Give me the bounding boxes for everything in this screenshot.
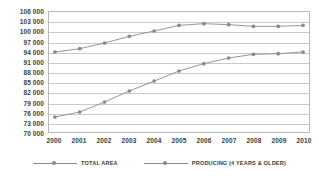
data-point-marker [202,22,206,26]
data-point-marker [127,34,131,38]
chart-legend: TOTAL AREAPRODUCING (4 YEARS & OLDER) [0,156,319,170]
data-point-marker [227,23,231,27]
y-axis: 106 000103 000100 00097 00094 00091 0008… [0,11,44,133]
plot-area [48,11,310,133]
y-tick-label: 94 000 [0,48,44,55]
line-chart: 106 000103 000100 00097 00094 00091 0008… [0,0,319,176]
data-point-marker [152,29,156,33]
data-point-marker [103,41,107,45]
data-point-marker [227,56,231,60]
y-tick-label: 97 000 [0,38,44,45]
data-point-marker [78,47,82,51]
data-point-marker [152,79,156,83]
y-tick-label: 106 000 [0,8,44,15]
data-point-marker [276,24,280,28]
legend-item[interactable]: PRODUCING (4 YEARS & OLDER) [144,160,286,167]
x-tick-label: 2010 [289,136,319,145]
y-tick-label: 79 000 [0,99,44,106]
legend-label: TOTAL AREA [81,160,118,167]
data-point-marker [301,50,305,54]
legend-item[interactable]: TOTAL AREA [33,160,118,167]
data-point-marker [301,23,305,27]
data-point-marker [202,62,206,66]
legend-marker-icon [163,161,167,165]
data-point-marker [103,100,107,104]
data-point-marker [252,52,256,56]
x-axis: 2000200120022003200420052006200720082009… [48,136,310,148]
legend-marker-icon [52,161,56,165]
legend-swatch [144,160,188,167]
data-point-marker [252,24,256,28]
y-tick-label: 91 000 [0,58,44,65]
series-line [55,52,303,117]
data-point-marker [177,69,181,73]
y-tick-label: 85 000 [0,79,44,86]
data-point-marker [127,89,131,93]
y-tick-label: 88 000 [0,69,44,76]
y-tick-label: 76 000 [0,109,44,116]
legend-swatch [33,160,77,167]
data-point-marker [53,115,57,119]
data-point-marker [78,110,82,114]
legend-label: PRODUCING (4 YEARS & OLDER) [192,160,286,167]
data-point-marker [177,23,181,27]
y-tick-label: 82 000 [0,89,44,96]
data-point-marker [276,52,280,56]
y-tick-label: 100 000 [0,28,44,35]
y-tick-label: 103 000 [0,18,44,25]
data-point-marker [53,50,57,54]
series-line [55,24,303,52]
y-tick-label: 70 000 [0,130,44,137]
y-tick-label: 73 000 [0,119,44,126]
series-layer [49,12,309,132]
